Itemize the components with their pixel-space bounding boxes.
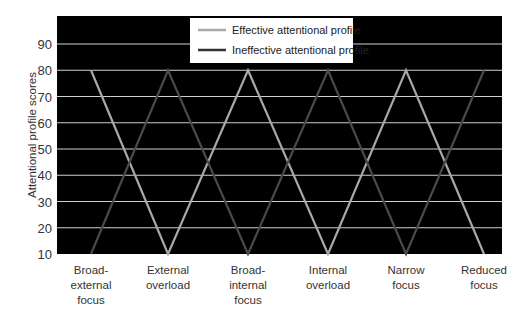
y-tick-70: 70 — [38, 90, 52, 105]
x-category-label: Internaloverload — [306, 264, 350, 291]
y-tick-10: 10 — [38, 247, 52, 262]
y-axis-label: Attentional profile scores — [26, 72, 38, 198]
legend-label-effective: Effective attentional profile — [232, 24, 361, 36]
x-category-label: Externaloverload — [146, 264, 190, 291]
y-tick-90: 90 — [38, 37, 52, 52]
y-axis-ticks: 102030405060708090 — [38, 37, 52, 262]
x-category-label: Broad-externalfocus — [71, 264, 112, 306]
legend-label-ineffective: Ineffective attentional profile — [232, 44, 369, 56]
legend: Effective attentional profile Ineffectiv… — [190, 18, 369, 63]
y-tick-20: 20 — [38, 221, 52, 236]
y-tick-40: 40 — [38, 168, 52, 183]
x-category-label: Reducedfocus — [461, 264, 507, 291]
x-category-label: Narrowfocus — [387, 264, 425, 291]
y-tick-80: 80 — [38, 63, 52, 78]
line-chart: 102030405060708090 Attentional profile s… — [0, 0, 527, 310]
y-tick-60: 60 — [38, 116, 52, 131]
x-category-label: Broad-internalfocus — [229, 264, 267, 306]
y-tick-50: 50 — [38, 142, 52, 157]
y-tick-30: 30 — [38, 195, 52, 210]
x-axis-categories: Broad-externalfocusExternaloverloadBroad… — [71, 264, 507, 306]
